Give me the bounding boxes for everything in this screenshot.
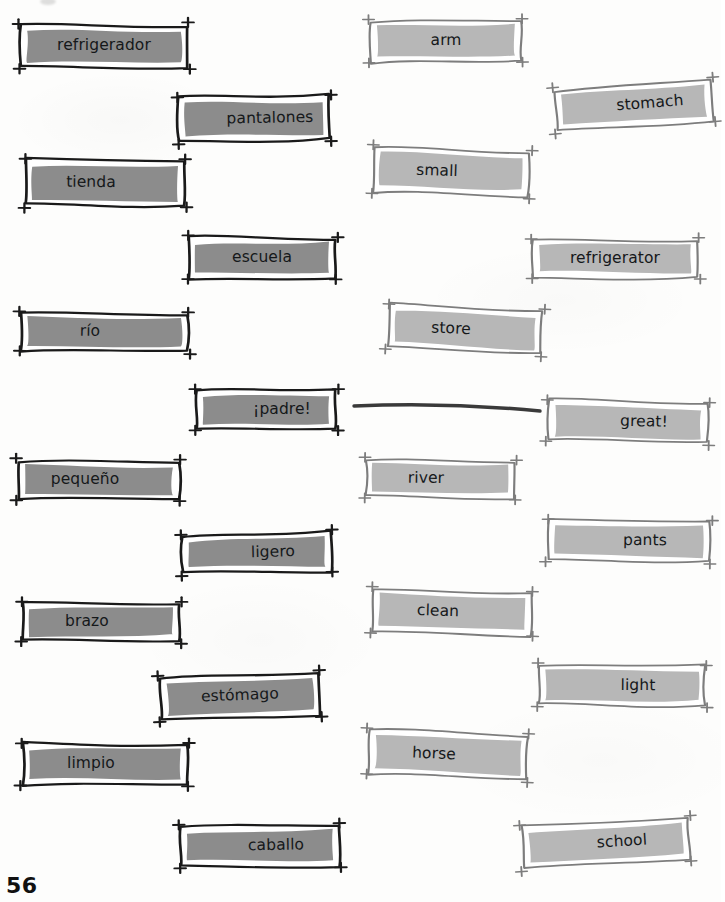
page-number: 56 bbox=[6, 873, 38, 898]
